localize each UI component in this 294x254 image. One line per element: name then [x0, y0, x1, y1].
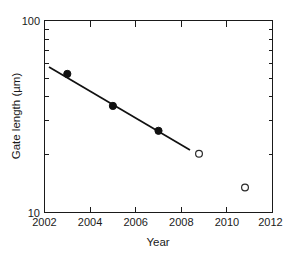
x-tick-labels: 2002 2004 2006 2008 2010 2012: [32, 216, 282, 228]
series-projected-points: [196, 150, 249, 191]
data-point-open: [196, 150, 203, 157]
x-tick-label-2012: 2012: [258, 216, 282, 228]
y-tick-label-top: 100: [22, 15, 40, 27]
x-axis-ticks: [45, 21, 273, 213]
chart-figure: 100 10 2002 2004 2006 2008 2010 2012 Yea…: [0, 0, 294, 254]
x-tick-label-2006: 2006: [123, 216, 147, 228]
y-axis-title: Gate length (µm): [10, 73, 22, 160]
data-point-filled: [109, 102, 116, 109]
x-tick-label-2002: 2002: [32, 216, 56, 228]
x-axis-title: Year: [146, 236, 169, 248]
x-tick-label-2010: 2010: [215, 216, 239, 228]
y-tick-labels: 100 10: [22, 15, 40, 219]
plot-frame: [45, 21, 273, 213]
trend-line: [49, 67, 190, 150]
x-tick-label-2008: 2008: [169, 216, 193, 228]
data-point-filled: [155, 127, 162, 134]
gate-length-vs-year-chart: 100 10 2002 2004 2006 2008 2010 2012 Yea…: [0, 0, 294, 254]
x-tick-label-2004: 2004: [78, 216, 102, 228]
y-axis-ticks: [45, 21, 273, 213]
data-point-open: [242, 184, 249, 191]
data-point-filled: [64, 70, 71, 77]
